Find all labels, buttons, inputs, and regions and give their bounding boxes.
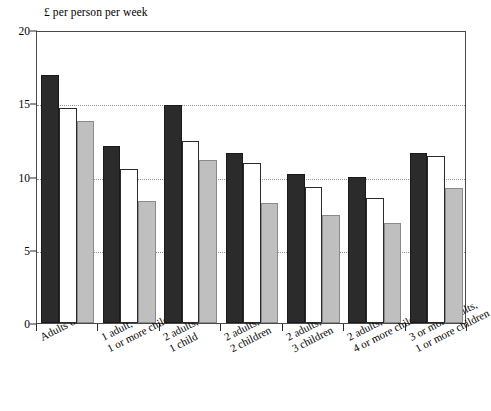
bar — [445, 188, 463, 323]
bar — [59, 108, 77, 323]
x-tick-mark-0 — [36, 324, 37, 331]
bar — [199, 160, 217, 323]
bar — [77, 121, 95, 323]
plot-inner — [37, 32, 465, 323]
bar — [384, 223, 402, 323]
bar — [366, 198, 384, 323]
bar — [164, 105, 182, 323]
bar — [243, 163, 261, 323]
y-tick-label-10: 10 — [4, 172, 30, 184]
y-tick-mark-10 — [30, 177, 37, 178]
bar — [410, 153, 428, 323]
bar — [427, 156, 445, 323]
bar — [348, 177, 366, 324]
plot-area — [36, 31, 466, 324]
bar — [305, 187, 323, 323]
bar — [287, 174, 305, 323]
bar — [322, 215, 340, 323]
x-tick-mark-5 — [343, 324, 344, 331]
x-tick-mark-1 — [97, 324, 98, 331]
y-tick-label-20: 20 — [4, 25, 30, 37]
gridline-15 — [37, 105, 465, 106]
bar — [138, 201, 156, 323]
x-tick-mark-3 — [220, 324, 221, 331]
bar — [261, 203, 279, 323]
y-tick-mark-15 — [30, 104, 37, 105]
bar — [103, 146, 121, 323]
bar — [226, 153, 244, 323]
x-tick-mark-4 — [282, 324, 283, 331]
bar — [182, 141, 200, 323]
bar — [120, 169, 138, 323]
y-tick-mark-5 — [30, 250, 37, 251]
y-tick-label-15: 15 — [4, 98, 30, 110]
y-tick-mark-20 — [30, 31, 37, 32]
y-tick-label-5: 5 — [4, 245, 30, 257]
y-tick-label-0: 0 — [4, 318, 30, 330]
bar — [41, 75, 59, 323]
y-axis-title: £ per person per week — [44, 6, 148, 18]
